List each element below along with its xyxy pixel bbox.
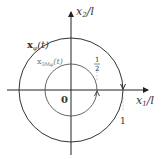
phase-diagram: x2/l x1/l 0 xφ(t) x3Mφ(t) 1 2 1 [0, 0, 161, 159]
inner-radius-denominator: 2 [95, 65, 99, 73]
inner-radius-numerator: 1 [95, 56, 99, 64]
origin-label: 0 [61, 94, 68, 105]
x2-axis-label: x2/l [76, 5, 94, 19]
outer-radius-label: 1 [120, 116, 126, 126]
x1-axis-label: x1/l [136, 94, 154, 108]
inner-circle-label: x3Mφ(t) [37, 57, 63, 68]
